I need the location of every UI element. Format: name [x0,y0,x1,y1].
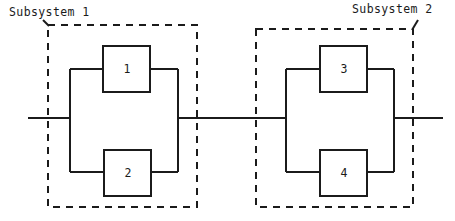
subsystem-1-label: Subsystem 1 [9,6,90,19]
block-1-label: 1 [103,63,151,75]
subsystem-2-leader-line [412,20,418,30]
diagram-canvas: Subsystem 1 Subsystem 2 1 2 3 4 [0,0,455,221]
reliability-block-diagram [0,0,455,221]
block-2-label: 2 [104,167,152,179]
block-4-label: 4 [320,167,368,179]
block-3-label: 3 [320,63,368,75]
subsystem-1-leader-line [43,20,49,26]
subsystem-2-label: Subsystem 2 [352,3,433,16]
